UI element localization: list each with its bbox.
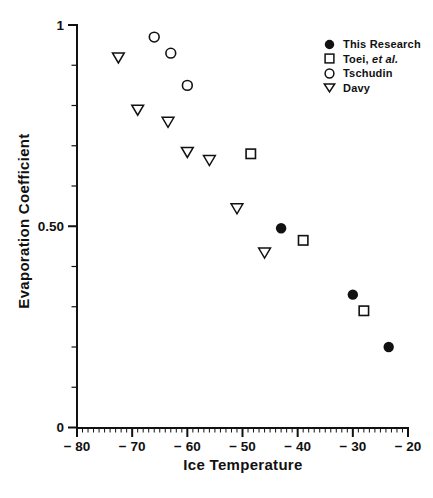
legend-item-toei: Toei, et al. bbox=[322, 52, 421, 67]
point-open-circle bbox=[149, 32, 159, 42]
x-tick-label: − 80 bbox=[64, 439, 91, 454]
point-open-triangle bbox=[112, 53, 124, 63]
point-open-triangle bbox=[132, 105, 144, 115]
y-axis-title: Evaporation Coefficient bbox=[15, 91, 33, 351]
point-filled-circle bbox=[348, 289, 358, 299]
point-open-circle bbox=[182, 80, 192, 90]
legend-item-davy: Davy bbox=[322, 81, 421, 96]
point-open-triangle bbox=[231, 204, 243, 214]
filled-circle-icon bbox=[322, 38, 337, 51]
point-open-square bbox=[246, 149, 255, 158]
x-tick-label: − 30 bbox=[340, 439, 367, 454]
y-tick-label: 0.50 bbox=[38, 219, 64, 234]
y-tick-label: 0 bbox=[56, 420, 64, 435]
point-filled-circle bbox=[276, 223, 286, 233]
x-tick-label: − 20 bbox=[395, 439, 422, 454]
legend-label: Tschudin bbox=[343, 67, 393, 79]
point-filled-circle bbox=[383, 342, 393, 352]
legend-item-this-research: This Research bbox=[322, 37, 421, 52]
legend-label: This Research bbox=[343, 38, 421, 50]
legend-label: Davy bbox=[343, 82, 370, 94]
open-circle-icon bbox=[322, 67, 337, 80]
x-tick-label: − 70 bbox=[119, 439, 146, 454]
legend: This Research Toei, et al. Tschudin Davy bbox=[322, 37, 421, 95]
point-open-circle bbox=[166, 48, 176, 58]
y-tick-label: 1 bbox=[56, 18, 64, 33]
legend-label: Toei, et al. bbox=[343, 53, 398, 65]
point-open-triangle bbox=[181, 147, 193, 157]
open-square-icon bbox=[322, 52, 337, 65]
point-open-triangle bbox=[259, 248, 271, 258]
point-open-triangle bbox=[204, 156, 216, 166]
x-tick-label: − 50 bbox=[229, 439, 256, 454]
x-tick-label: − 40 bbox=[284, 439, 311, 454]
figure: − 80− 70− 60− 50− 40− 30− 2000.501 Ice T… bbox=[0, 0, 433, 498]
x-tick-label: − 60 bbox=[174, 439, 201, 454]
point-open-square bbox=[298, 236, 307, 245]
open-triangle-icon bbox=[322, 81, 337, 94]
point-open-triangle bbox=[162, 117, 174, 127]
x-axis-title: Ice Temperature bbox=[77, 456, 409, 473]
legend-item-tschudin: Tschudin bbox=[322, 66, 421, 81]
point-open-square bbox=[359, 306, 368, 315]
